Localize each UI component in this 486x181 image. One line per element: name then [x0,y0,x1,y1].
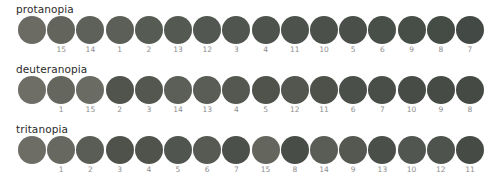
color-swatch-label: 14 [310,165,338,175]
color-swatch: 5 [339,16,368,60]
color-swatch-label: 9 [398,45,426,55]
color-swatch-circle [281,16,309,44]
color-swatch: 7 [456,16,485,60]
color-swatch: 13 [164,16,193,60]
color-swatch-circle [106,136,134,164]
color-swatch-label: 2 [76,165,104,175]
color-swatch-circle [368,16,396,44]
color-swatch-circle [398,76,426,104]
color-swatch: 13 [368,136,397,180]
color-swatch: 1 [47,136,76,180]
color-swatch-label: 8 [427,45,455,55]
color-swatch: 13 [193,76,222,120]
color-swatch-circle [76,136,104,164]
color-swatch: 10 [398,136,427,180]
simulation-row-tritanopia: tritanopia 123456715814913101211 [0,120,486,180]
color-swatch-circle [427,136,455,164]
color-swatch-label: 3 [222,45,250,55]
color-swatch [18,76,47,120]
color-swatch-label: 12 [427,165,455,175]
color-swatch-circle [135,76,163,104]
color-swatch-circle [47,76,75,104]
color-swatch-label: 8 [456,105,484,115]
color-swatch: 10 [398,76,427,120]
color-swatch: 1 [106,16,135,60]
color-swatch: 9 [427,76,456,120]
color-swatch-circle [252,76,280,104]
color-swatch: 6 [193,136,222,180]
color-swatch: 15 [47,16,76,60]
color-swatch-circle [193,76,221,104]
color-swatch-circle [222,16,250,44]
color-swatch-circle [310,76,338,104]
color-swatch-circle [398,136,426,164]
color-swatch-circle [456,136,484,164]
color-swatch-label: 4 [252,45,280,55]
color-swatch: 7 [368,76,397,120]
row-title-protanopia: protanopia [16,3,74,15]
color-swatch-circle [164,76,192,104]
color-swatch-label: 7 [456,45,484,55]
color-swatch: 8 [456,76,485,120]
color-swatch [18,136,47,180]
color-swatch-label: 14 [76,45,104,55]
color-swatch-label: 7 [222,165,250,175]
color-swatch: 6 [339,76,368,120]
color-swatch: 5 [252,76,281,120]
color-swatch-label: 8 [281,165,309,175]
swatch-strip-protanopia: 151412131234111056987 [0,16,486,60]
color-swatch-circle [222,136,250,164]
color-swatch-label: 14 [164,105,192,115]
color-swatch: 3 [135,76,164,120]
color-swatch-circle [106,16,134,44]
color-swatch: 15 [76,76,105,120]
color-swatch-circle [135,136,163,164]
color-swatch-circle [222,76,250,104]
color-swatch-circle [252,136,280,164]
color-swatch-circle [76,76,104,104]
color-swatch-circle [18,16,46,44]
color-swatch-circle [193,16,221,44]
color-swatch-circle [368,136,396,164]
color-swatch-label: 1 [47,105,75,115]
color-swatch: 11 [310,76,339,120]
color-swatch-circle [427,16,455,44]
color-swatch: 5 [164,136,193,180]
colorblind-simulation-figure: protanopia 151412131234111056987 deutera… [0,0,486,181]
color-swatch-label: 15 [47,45,75,55]
color-swatch: 4 [252,16,281,60]
color-swatch: 2 [106,76,135,120]
color-swatch-label: 4 [135,165,163,175]
swatch-strip-deuteranopia: 115231413451211671098 [0,76,486,120]
color-swatch-label: 2 [135,45,163,55]
color-swatch-circle [76,16,104,44]
color-swatch-circle [310,16,338,44]
row-title-deuteranopia: deuteranopia [16,63,87,75]
color-swatch-label: 13 [368,165,396,175]
color-swatch-label: 2 [106,105,134,115]
color-swatch-label: 10 [310,45,338,55]
color-swatch-circle [193,136,221,164]
color-swatch-label: 10 [398,165,426,175]
color-swatch: 8 [281,136,310,180]
color-swatch-label: 11 [456,165,484,175]
color-swatch: 4 [222,76,251,120]
color-swatch-label: 12 [193,45,221,55]
color-swatch-circle [339,16,367,44]
color-swatch: 1 [47,76,76,120]
color-swatch-circle [281,76,309,104]
color-swatch-label: 5 [252,105,280,115]
color-swatch-label: 15 [252,165,280,175]
color-swatch [18,16,47,60]
color-swatch: 12 [193,16,222,60]
color-swatch-circle [339,76,367,104]
simulation-row-deuteranopia: deuteranopia 115231413451211671098 [0,60,486,120]
simulation-row-protanopia: protanopia 151412131234111056987 [0,0,486,60]
color-swatch: 15 [252,136,281,180]
color-swatch-label: 10 [398,105,426,115]
color-swatch-circle [456,16,484,44]
color-swatch-label: 3 [106,165,134,175]
color-swatch-circle [164,136,192,164]
color-swatch: 3 [106,136,135,180]
color-swatch-circle [398,16,426,44]
